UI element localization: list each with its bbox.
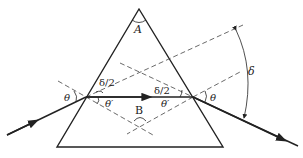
emergent-ray-arrow: [193, 97, 282, 139]
theta-prime-left-label: θ′: [105, 98, 114, 109]
prism-diagram: A B θ θ θ′ θ′ δ/2 δ/2 δ: [0, 0, 303, 158]
theta-prime-right-label: θ′: [161, 98, 170, 109]
apex-angle-label: A: [133, 23, 142, 36]
half-deviation-left-label: δ/2: [99, 77, 115, 88]
theta-right-arc: [205, 91, 207, 102]
angle-B-arc: [134, 118, 146, 122]
half-deviation-right-label: δ/2: [154, 85, 170, 96]
theta-left-label: θ: [64, 92, 70, 103]
incident-ray-arrow: [7, 122, 34, 135]
angle-B-label: B: [135, 104, 143, 117]
deviation-arc: [236, 30, 248, 118]
theta-right-label: θ: [210, 92, 216, 103]
emergent-ray-extension: [193, 72, 240, 97]
deviation-label: δ: [248, 65, 255, 78]
dashed-construction-lines: [58, 25, 243, 135]
theta-left-arc: [74, 91, 77, 102]
